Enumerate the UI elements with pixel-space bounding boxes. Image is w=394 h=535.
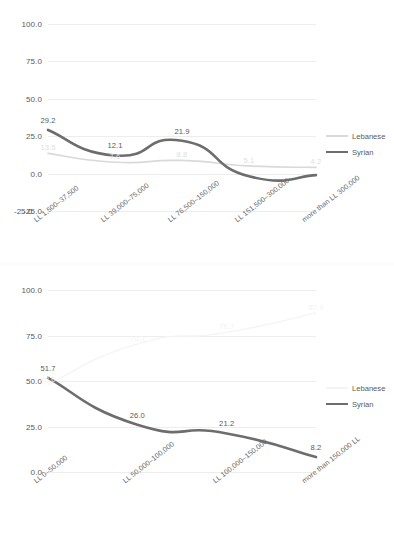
y-axis-tick-label: 25.0 xyxy=(26,132,42,141)
legend-item-syrian[interactable]: Syrian xyxy=(326,144,385,160)
data-label-syrian: 26.0 xyxy=(130,411,145,420)
data-label-syrian: 21.2 xyxy=(219,419,234,428)
legend-label-syrian: Syrian xyxy=(352,400,374,409)
data-label-lebanese: 7.6 xyxy=(110,152,121,161)
legend-item-lebanese[interactable]: Lebanese xyxy=(326,380,385,396)
data-label-lebanese: 76.7 xyxy=(219,322,234,331)
data-label-syrian: 8.2 xyxy=(311,443,322,452)
data-label-lebanese: 5.1 xyxy=(244,156,255,165)
chart-2: 100.075.050.025.00.0 48.070.376.787.451.… xyxy=(0,266,394,535)
chart-1-plot-area: 100.075.050.025.00.0-25.0 13.57.68.85.14… xyxy=(48,24,316,211)
legend-line-icon-lebanese xyxy=(326,135,348,137)
legend-line-icon-syrian xyxy=(326,403,348,406)
chart-1-x-axis-labels: LL 1,500–37,500LL 39,000–75,000LL 76,500… xyxy=(48,211,316,267)
data-label-syrian: 21.9 xyxy=(174,127,189,136)
data-label-lebanese: 48.0 xyxy=(40,375,55,384)
data-label-syrian: 29.2 xyxy=(40,116,55,125)
chart-2-plot-area: 100.075.050.025.00.0 48.070.376.787.451.… xyxy=(48,290,316,472)
series-line-lebanese xyxy=(48,313,316,385)
chart-2-legend: Lebanese Syrian xyxy=(326,380,385,412)
chart-2-frame: 100.075.050.025.00.0 48.070.376.787.451.… xyxy=(8,272,386,535)
y-axis-tick-label: 75.0 xyxy=(26,57,42,66)
y-axis-tick-label: 100.0 xyxy=(21,20,42,29)
y-axis-tick-label: 25.0 xyxy=(26,422,42,431)
y-axis-tick-label: 0.0 xyxy=(31,169,42,178)
legend-label-lebanese: Lebanese xyxy=(352,132,385,141)
series-line-syrian xyxy=(48,378,316,457)
y-axis-tick-label: 100.0 xyxy=(21,286,42,295)
chart-2-series-lines xyxy=(48,290,316,472)
legend-item-lebanese[interactable]: Lebanese xyxy=(326,128,385,144)
data-label-syrian: 12.1 xyxy=(107,141,122,150)
chart-1-ytick-negative: -25.0 xyxy=(14,207,32,216)
data-label-lebanese: 70.3 xyxy=(130,334,145,343)
chart-2-x-axis-labels: LL 0–50,000LL 50,000–100,000LL 100,000–1… xyxy=(48,472,316,528)
legend-label-lebanese: Lebanese xyxy=(352,384,385,393)
data-label-syrian: 51.7 xyxy=(40,364,55,373)
legend-line-icon-lebanese xyxy=(326,387,348,388)
data-label-lebanese: 87.4 xyxy=(308,303,323,312)
data-label-lebanese: 8.8 xyxy=(177,150,188,159)
chart-1-frame: 100.075.050.025.00.0-25.0 13.57.68.85.14… xyxy=(8,6,386,268)
chart-1: 100.075.050.025.00.0-25.0 13.57.68.85.14… xyxy=(0,0,394,262)
legend-line-icon-syrian xyxy=(326,151,348,154)
y-axis-tick-label: 50.0 xyxy=(26,94,42,103)
figure-page: 100.075.050.025.00.0-25.0 13.57.68.85.14… xyxy=(0,0,394,535)
y-axis-tick-label: 75.0 xyxy=(26,331,42,340)
data-label-lebanese: 4.2 xyxy=(311,157,322,166)
legend-item-syrian[interactable]: Syrian xyxy=(326,396,385,412)
chart-1-legend: Lebanese Syrian xyxy=(326,128,385,160)
data-label-lebanese: 13.5 xyxy=(40,143,55,152)
legend-label-syrian: Syrian xyxy=(352,148,374,157)
